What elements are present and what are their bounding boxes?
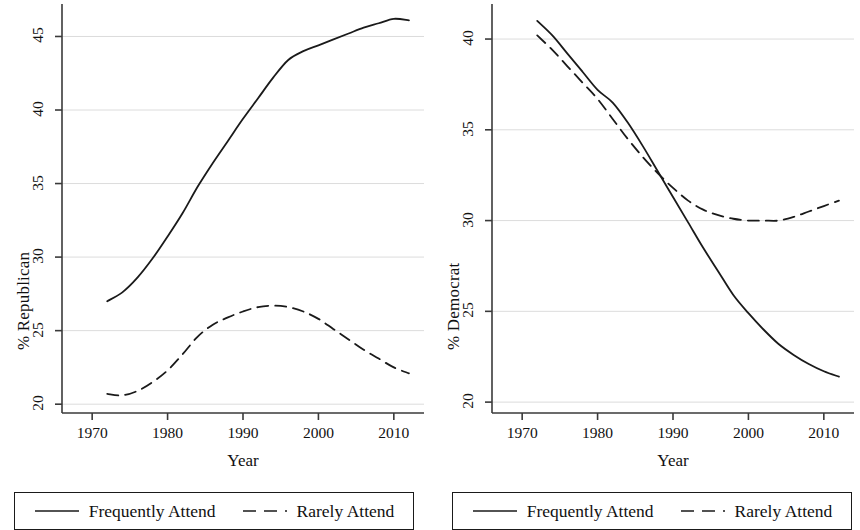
y-tick-label: 35: [29, 170, 47, 196]
y-tick-label: 30: [29, 243, 47, 269]
x-tick-label: 2010: [366, 424, 422, 442]
series-line-rarely-attend: [537, 35, 839, 220]
legend-entry-frequently-attend: Frequently Attend: [472, 501, 654, 522]
legend-label-frequently-attend: Frequently Attend: [527, 501, 654, 522]
y-tick-label: 25: [29, 317, 47, 343]
legend-label-frequently-attend: Frequently Attend: [89, 501, 216, 522]
series-line-frequently-attend: [107, 19, 409, 301]
x-tick-label: 1980: [140, 424, 196, 442]
y-tick-label: 45: [29, 22, 47, 48]
plot-area-democrat: [430, 0, 860, 470]
x-tick-label: 1990: [645, 424, 701, 442]
solid-line-icon: [472, 505, 518, 517]
legend-right: Frequently Attend Rarely Attend: [452, 492, 852, 530]
y-tick-label: 30: [459, 207, 477, 233]
legend-left: Frequently Attend Rarely Attend: [14, 492, 414, 530]
y-tick-label: 40: [29, 96, 47, 122]
legend-label-rarely-attend: Rarely Attend: [297, 501, 395, 522]
y-tick-label: 20: [459, 388, 477, 414]
y-tick-label: 25: [459, 297, 477, 323]
solid-line-icon: [34, 505, 80, 517]
dashed-line-icon: [680, 505, 726, 517]
x-tick-label: 2010: [796, 424, 852, 442]
x-tick-label: 1980: [570, 424, 626, 442]
legend-label-rarely-attend: Rarely Attend: [735, 501, 833, 522]
legend-entry-frequently-attend: Frequently Attend: [34, 501, 216, 522]
series-line-frequently-attend: [537, 21, 839, 377]
figure-two-panel-line-charts: % Republican Year 2025303540451970198019…: [0, 0, 860, 530]
x-axis-title-left: Year: [62, 451, 424, 471]
series-line-rarely-attend: [107, 306, 409, 396]
x-axis-title-right: Year: [492, 451, 854, 471]
panel-republican: % Republican Year 2025303540451970198019…: [0, 0, 430, 530]
y-tick-label: 40: [459, 25, 477, 51]
y-tick-label: 35: [459, 116, 477, 142]
x-tick-label: 1970: [494, 424, 550, 442]
panel-democrat: % Democrat Year 202530354019701980199020…: [430, 0, 860, 530]
dashed-line-icon: [242, 505, 288, 517]
x-tick-label: 1970: [64, 424, 120, 442]
x-tick-label: 1990: [215, 424, 271, 442]
x-tick-label: 2000: [720, 424, 776, 442]
plot-area-republican: [0, 0, 430, 470]
x-tick-label: 2000: [290, 424, 346, 442]
legend-entry-rarely-attend: Rarely Attend: [242, 501, 395, 522]
y-tick-label: 20: [29, 390, 47, 416]
legend-entry-rarely-attend: Rarely Attend: [680, 501, 833, 522]
